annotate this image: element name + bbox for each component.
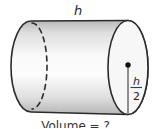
cylinder-diagram-svg: h h 2 Volume = ? [0, 0, 153, 128]
center-dot [125, 62, 130, 67]
radius-fraction-numerator: h [133, 75, 140, 88]
cylinder-figure: h h 2 Volume = ? [0, 0, 153, 128]
radius-fraction-denominator: 2 [133, 90, 140, 103]
height-label: h [74, 3, 82, 18]
volume-caption: Volume = ? [41, 119, 110, 129]
